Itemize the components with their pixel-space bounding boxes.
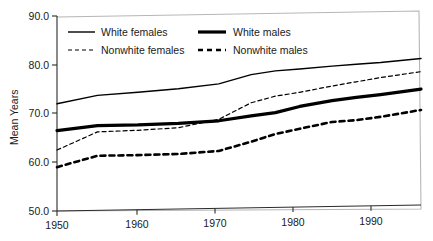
chart-container: 90.0 80.0 70.0 60.0 50.0 Mean Years 1950… bbox=[0, 0, 433, 241]
y-axis-ticks bbox=[52, 16, 57, 211]
chart-legend: White females White males Nonwhite femal… bbox=[68, 26, 308, 56]
legend-label-nonwhite-males: Nonwhite males bbox=[233, 44, 308, 56]
plot-frame bbox=[57, 11, 421, 211]
legend-label-white-males: White males bbox=[233, 26, 291, 38]
y-tick-label: 60.0 bbox=[29, 156, 50, 168]
series-line-white-males bbox=[57, 89, 421, 130]
y-axis-tick-labels: 90.0 80.0 70.0 60.0 50.0 bbox=[29, 10, 50, 217]
legend-label-white-females: White females bbox=[101, 26, 168, 38]
life-expectancy-line-chart: 90.0 80.0 70.0 60.0 50.0 Mean Years 1950… bbox=[0, 0, 433, 241]
series-line-nonwhite-females bbox=[57, 72, 421, 150]
x-tick-label: 1990 bbox=[359, 215, 383, 227]
y-tick-label: 80.0 bbox=[29, 59, 50, 71]
x-tick-label: 1950 bbox=[45, 219, 69, 231]
y-axis-title: Mean Years bbox=[8, 90, 20, 145]
legend-label-nonwhite-females: Nonwhite females bbox=[101, 44, 184, 56]
y-tick-label: 50.0 bbox=[29, 205, 50, 217]
x-axis-tick-labels: 1950 1960 1970 1980 1990 bbox=[45, 215, 383, 231]
data-series-layer bbox=[57, 59, 421, 168]
x-tick-label: 1970 bbox=[203, 217, 227, 229]
x-tick-label: 1960 bbox=[125, 218, 149, 230]
y-tick-label: 70.0 bbox=[29, 107, 50, 119]
y-tick-label: 90.0 bbox=[29, 10, 50, 22]
x-tick-label: 1980 bbox=[281, 216, 305, 228]
